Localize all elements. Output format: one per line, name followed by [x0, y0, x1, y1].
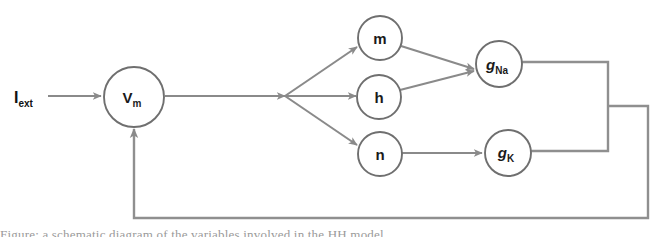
node-gk[interactable]: gK: [485, 130, 531, 176]
node-m[interactable]: m: [358, 16, 402, 60]
node-gna[interactable]: gNa: [476, 41, 522, 87]
node-n-label: n: [375, 146, 384, 163]
node-m-label: m: [373, 30, 386, 47]
diagram-svg: Vm m h n gNa gK Iext: [0, 0, 656, 237]
edge-branch-to-m: [285, 47, 357, 96]
edge-gk-to-bus: [531, 106, 608, 151]
node-n[interactable]: n: [358, 132, 402, 176]
edge-m-to-gna: [401, 46, 474, 69]
node-h[interactable]: h: [357, 75, 401, 119]
edge-h-to-gna: [400, 71, 474, 90]
node-h-label: h: [374, 89, 383, 106]
caption-fragment: Figure: a schematic diagram of the varia…: [0, 228, 656, 237]
node-vm[interactable]: Vm: [104, 67, 164, 127]
edge-branch-to-n: [285, 96, 357, 145]
node-gna-circle: [476, 41, 522, 87]
external-current-label: Iext: [14, 89, 34, 109]
node-vm-circle: [104, 67, 164, 127]
edge-gna-to-bus: [522, 62, 608, 106]
diagram-canvas: Vm m h n gNa gK Iext Figure: a sc: [0, 0, 656, 237]
